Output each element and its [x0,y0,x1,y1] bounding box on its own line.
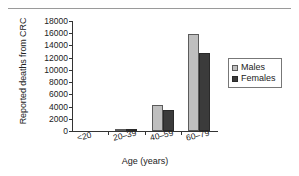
legend-swatch-males-icon [232,65,238,71]
bar [188,34,199,131]
chart-legend: Males Females [228,58,282,88]
bar [152,105,163,131]
x-tick-mark [108,131,109,135]
y-tick-label: 8000 [34,78,72,86]
bar-group [108,21,144,131]
x-tick-mark [145,131,146,135]
y-tick-label: 4000 [34,103,72,111]
bar-group [72,21,108,131]
legend-swatch-females-icon [232,76,238,82]
y-tick-label: 12000 [34,54,72,62]
header-divider [8,8,291,9]
bar-group [181,21,217,131]
x-tick-mark [181,131,182,135]
y-tick-label: 6000 [34,90,72,98]
y-tick-label: 14000 [34,41,72,49]
legend-label-males: Males [241,62,265,73]
y-tick-label: 16000 [34,29,72,37]
legend-item-females: Females [232,73,276,84]
legend-item-males: Males [232,62,276,73]
y-tick-label: 0 [34,127,72,135]
y-tick-label: 10000 [34,66,72,74]
y-axis-title: Reported deaths from CRC [18,12,28,130]
y-tick-mark [69,131,72,132]
bar [199,53,210,131]
plot-area: 0200040006000800010000120001400016000180… [72,21,217,131]
bar-group [145,21,181,131]
y-tick-label: 18000 [34,17,72,25]
x-tick-label: <20 [76,130,92,143]
chart-figure: Reported deaths from CRC 020004000600080… [0,0,299,176]
y-tick-label: 2000 [34,115,72,123]
legend-label-females: Females [241,73,276,84]
x-axis-title: Age (years) [72,156,218,166]
